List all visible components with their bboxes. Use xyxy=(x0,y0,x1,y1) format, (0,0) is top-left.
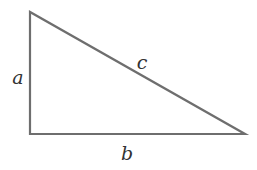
side-label-b: b xyxy=(121,142,133,164)
triangle-diagram: a b c xyxy=(0,0,257,170)
right-triangle-shape xyxy=(30,12,245,134)
triangle-svg: a b c xyxy=(0,0,257,170)
hypotenuse-label-c: c xyxy=(137,51,148,73)
side-label-a: a xyxy=(12,66,23,88)
